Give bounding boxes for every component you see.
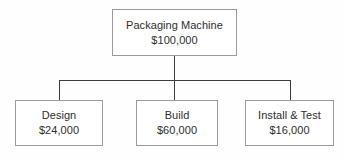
node-value: $24,000 (39, 123, 79, 138)
node-title: Install & Test (258, 108, 321, 123)
node-packaging-machine[interactable]: Packaging Machine $100,000 (112, 9, 237, 56)
wbs-diagram-canvas: Packaging Machine $100,000 Design $24,00… (0, 0, 346, 159)
node-value: $60,000 (157, 123, 197, 138)
connector-horizontal-bus (59, 80, 291, 81)
node-title: Packaging Machine (126, 18, 223, 33)
connector-drop-build (174, 80, 175, 100)
node-value: $16,000 (269, 123, 309, 138)
node-value: $100,000 (151, 33, 197, 48)
connector-drop-design (59, 80, 60, 100)
node-title: Design (42, 108, 77, 123)
connector-root-stem (174, 56, 175, 81)
node-build[interactable]: Build $60,000 (136, 100, 218, 146)
connector-drop-install (290, 80, 291, 100)
node-title: Build (165, 108, 190, 123)
node-install-and-test[interactable]: Install & Test $16,000 (245, 100, 334, 146)
node-design[interactable]: Design $24,000 (15, 100, 103, 146)
